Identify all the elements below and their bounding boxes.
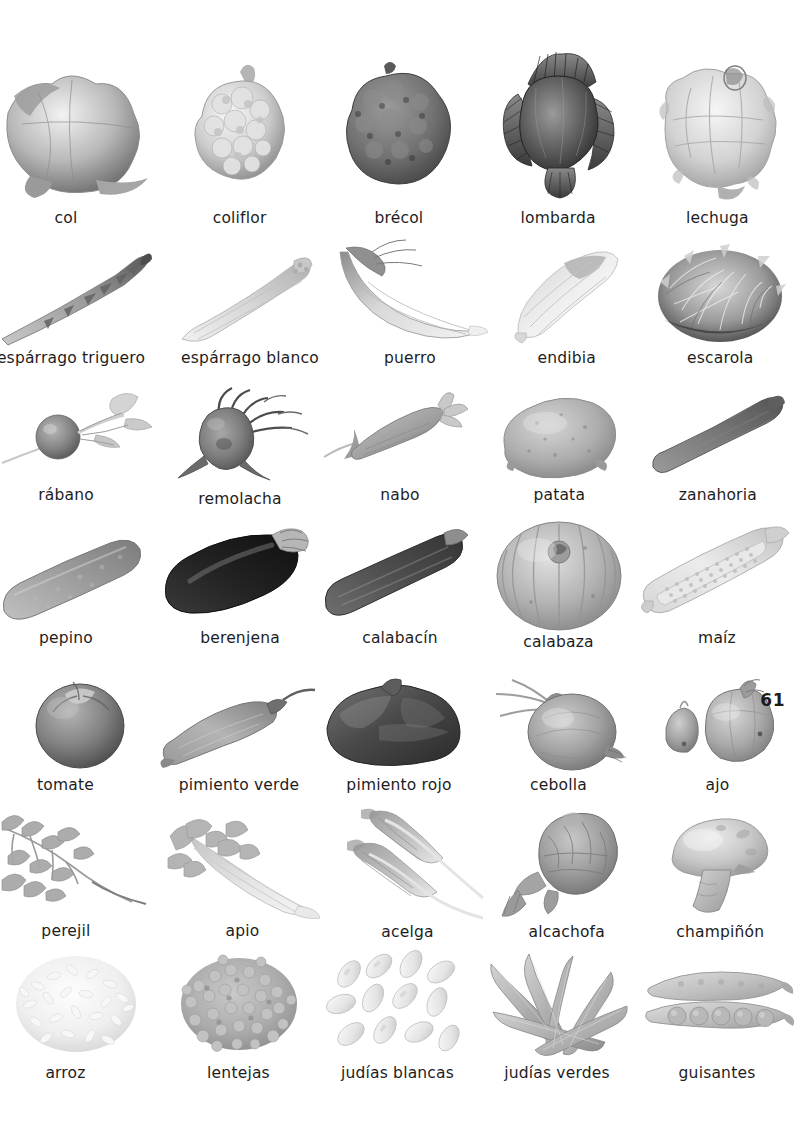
item-puerro[interactable]: puerro	[330, 235, 490, 370]
potato-icon	[489, 385, 629, 485]
rice-icon	[10, 946, 150, 1064]
row-legumes-grains: arroz	[0, 946, 797, 1084]
corn-icon	[637, 523, 797, 628]
item-col[interactable]: col	[0, 45, 160, 230]
item-label: cebolla	[530, 778, 587, 794]
endive-icon	[502, 243, 632, 348]
celery-icon	[160, 806, 325, 921]
red-cabbage-icon	[488, 48, 628, 208]
item-alcachofa[interactable]: alcachofa	[490, 806, 644, 942]
item-esparrago-triguero[interactable]: espárrago triguero	[0, 235, 170, 370]
item-label: brécol	[374, 211, 423, 227]
onion-icon	[484, 670, 634, 775]
item-maiz[interactable]: maíz	[637, 518, 797, 650]
item-pimiento-verde[interactable]: pimiento verde	[159, 665, 319, 797]
parsley-icon	[0, 806, 160, 921]
green-pepper-icon	[159, 670, 319, 775]
broccoli-icon	[334, 58, 464, 208]
lettuce-icon	[647, 58, 787, 208]
item-label: remolacha	[198, 492, 282, 508]
chard-icon	[325, 806, 490, 924]
item-apio[interactable]: apio	[160, 806, 325, 942]
item-calabacin[interactable]: calabacín	[320, 518, 480, 650]
item-nabo[interactable]: nabo	[320, 382, 480, 507]
item-label: judías verdes	[504, 1066, 610, 1082]
item-label: arroz	[45, 1066, 85, 1082]
item-label: espárrago triguero	[0, 351, 145, 367]
item-cebolla[interactable]: cebolla	[479, 665, 638, 797]
item-coliflor[interactable]: coliflor	[160, 45, 319, 230]
garlic-icon	[648, 670, 788, 775]
item-arroz[interactable]: arroz	[0, 946, 159, 1084]
red-pepper-icon	[319, 670, 479, 775]
item-lechuga[interactable]: lechuga	[638, 45, 797, 230]
item-pepino[interactable]: pepino	[0, 518, 160, 650]
item-label: acelga	[381, 925, 433, 941]
item-calabaza[interactable]: calabaza	[480, 518, 637, 650]
item-acelga[interactable]: acelga	[325, 806, 490, 942]
item-label: ajo	[706, 778, 730, 794]
pumpkin-icon	[489, 510, 629, 635]
item-tomate[interactable]: tomate	[0, 665, 159, 797]
row-fruit-vegetables: pepino berenjena	[0, 518, 797, 650]
item-ajo[interactable]: ajo	[638, 665, 797, 797]
item-pimiento-rojo[interactable]: pimiento rojo	[319, 665, 479, 797]
item-judias-blancas[interactable]: judías blancas	[318, 946, 477, 1084]
item-remolacha[interactable]: remolacha	[160, 382, 320, 507]
item-patata[interactable]: patata	[480, 382, 639, 507]
carrot-icon	[643, 385, 793, 485]
beetroot-icon	[160, 382, 320, 492]
item-endibia[interactable]: endibia	[490, 235, 644, 370]
item-label: coliflor	[213, 211, 267, 227]
artichoke-icon	[492, 806, 642, 924]
item-label: lombarda	[520, 211, 595, 227]
cauliflower-icon	[180, 58, 300, 208]
item-brecol[interactable]: brécol	[319, 45, 478, 230]
cucumber-icon	[0, 523, 160, 628]
item-label: champiñón	[676, 925, 764, 941]
item-label: rábano	[38, 488, 94, 504]
item-label: guisantes	[679, 1066, 756, 1082]
lentils-icon	[169, 946, 309, 1064]
escarole-icon	[650, 238, 790, 348]
vocabulary-page: col	[0, 0, 797, 1146]
item-esparrago-blanco[interactable]: espárrago blanco	[170, 235, 330, 370]
item-label: alcachofa	[529, 925, 605, 941]
item-label: apio	[226, 924, 260, 940]
row-roots: rábano	[0, 382, 797, 507]
item-label: pimiento verde	[179, 778, 299, 794]
item-berenjena[interactable]: berenjena	[160, 518, 320, 650]
item-rabano[interactable]: rábano	[0, 382, 160, 507]
item-lentejas[interactable]: lentejas	[159, 946, 318, 1084]
item-label: perejil	[41, 924, 90, 940]
turnip-icon	[320, 385, 480, 485]
item-label: tomate	[37, 778, 94, 794]
item-label: calabaza	[523, 635, 593, 651]
item-label: col	[55, 211, 78, 227]
item-lombarda[interactable]: lombarda	[479, 45, 638, 230]
item-zanahoria[interactable]: zanahoria	[639, 382, 797, 507]
white-asparagus-icon	[170, 243, 330, 348]
item-judias-verdes[interactable]: judías verdes	[477, 946, 637, 1084]
green-asparagus-icon	[0, 243, 170, 348]
item-label: zanahoria	[679, 488, 757, 504]
row-solanaceae-alliums: tomate pimiento verde	[0, 665, 797, 797]
item-label: judías blancas	[341, 1066, 454, 1082]
item-label: puerro	[384, 351, 436, 367]
row-stems-leaves: espárrago triguero espár	[0, 235, 797, 370]
item-champinon[interactable]: champiñón	[644, 806, 797, 942]
item-label: maíz	[698, 631, 736, 647]
item-perejil[interactable]: perejil	[0, 806, 160, 942]
cabbage-icon	[0, 58, 160, 208]
peas-icon	[637, 946, 797, 1064]
green-beans-icon	[477, 946, 637, 1064]
item-escarola[interactable]: escarola	[644, 235, 797, 370]
leek-icon	[330, 238, 490, 348]
item-label: nabo	[380, 488, 419, 504]
item-label: berenjena	[200, 631, 280, 647]
item-label: escarola	[687, 351, 754, 367]
item-guisantes[interactable]: guisantes	[637, 946, 797, 1084]
row-leafy-herbs: perejil	[0, 806, 797, 942]
item-label: calabacín	[362, 631, 438, 647]
item-label: endibia	[537, 351, 596, 367]
